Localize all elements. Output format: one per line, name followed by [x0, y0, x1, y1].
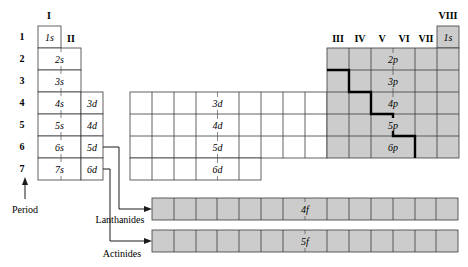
- d-block-6d: 6d: [213, 164, 224, 175]
- actinide-arrowhead-icon: [144, 238, 152, 244]
- d-column-5d: 5d: [87, 142, 98, 153]
- orbital-1s: 1s: [45, 32, 54, 43]
- period-7: 7: [20, 163, 25, 174]
- d-block-4d: 4d: [213, 120, 224, 131]
- period-arrow-icon: [22, 177, 28, 199]
- d-block-3d: 3d: [212, 98, 224, 109]
- d-block: [130, 92, 327, 180]
- f-block-4f: 4f: [301, 204, 310, 215]
- p-block-2p: 2p: [388, 54, 398, 65]
- period-numbers: 1 2 3 4 5 6 7: [20, 31, 25, 174]
- orbital-7s: 7s: [55, 164, 64, 175]
- orbital-2s: 2s: [55, 54, 64, 65]
- group-label-VI: VI: [398, 33, 409, 44]
- period-5: 5: [20, 119, 25, 130]
- orbital-5s: 5s: [55, 120, 64, 131]
- group-label-VIII: VIII: [439, 10, 458, 21]
- orbital-6s: 6s: [55, 142, 64, 153]
- p-block-3p: 3p: [387, 76, 398, 87]
- period-2: 2: [20, 53, 25, 64]
- periodic-table-orbital-diagram: I II III IV V VI VII VIII 1 2 3 4 5 6 7 …: [0, 0, 468, 267]
- d-column-6d: 6d: [87, 164, 98, 175]
- p-block-6p: 6p: [388, 142, 398, 153]
- group-label-III: III: [332, 33, 344, 44]
- group-label-V: V: [378, 33, 386, 44]
- group-label-II: II: [67, 33, 75, 44]
- period-axis-label: Period: [12, 204, 38, 215]
- f-block-5f: 5f: [301, 236, 310, 247]
- orbital-3s: 3s: [54, 76, 64, 87]
- period-1: 1: [20, 31, 25, 42]
- d-column-4d: 4d: [87, 120, 98, 131]
- p-block: [327, 26, 459, 158]
- group-label-IV: IV: [354, 33, 366, 44]
- lanthanide-arrowhead-icon: [144, 206, 152, 212]
- group-label-VII: VII: [418, 33, 433, 44]
- d-column-3d: 3d: [86, 98, 98, 109]
- actinides-label: Actinides: [103, 248, 141, 259]
- group-label-I: I: [47, 10, 51, 21]
- orbital-helium-1s: 1s: [444, 32, 453, 43]
- d-block-5d: 5d: [213, 142, 224, 153]
- period-6: 6: [20, 141, 25, 152]
- p-block-4p: 4p: [388, 98, 398, 109]
- period-3: 3: [20, 75, 25, 86]
- orbital-4s: 4s: [55, 98, 64, 109]
- lanthanides-label: Lanthanides: [96, 214, 145, 225]
- period-4: 4: [20, 97, 25, 108]
- p-block-5p: 5p: [388, 120, 398, 131]
